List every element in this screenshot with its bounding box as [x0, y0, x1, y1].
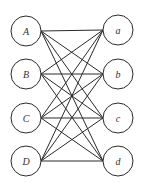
node-label: C	[23, 113, 30, 124]
node-C: C	[11, 103, 41, 133]
node-D: D	[11, 146, 41, 176]
node-d: d	[103, 146, 133, 176]
node-label: A	[22, 26, 30, 37]
node-label: B	[23, 69, 29, 80]
node-c: c	[103, 103, 133, 133]
node-B: B	[11, 59, 41, 89]
bipartite-graph: A B C D a b c d	[0, 0, 146, 190]
node-label: b	[116, 69, 121, 80]
node-label: c	[116, 113, 121, 124]
node-a: a	[103, 15, 133, 45]
node-A: A	[11, 16, 41, 46]
node-label: D	[21, 156, 30, 167]
edge-A-a	[41, 30, 103, 31]
edges	[41, 30, 103, 161]
node-b: b	[103, 59, 133, 89]
node-label: a	[116, 25, 121, 36]
